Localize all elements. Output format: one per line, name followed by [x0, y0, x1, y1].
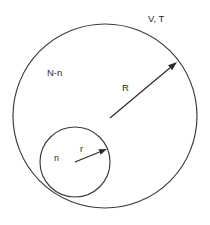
diagram-canvas: V, T N-n R n r	[0, 0, 210, 225]
outer-radius-arrow-shaft	[110, 68, 170, 118]
label-outer-population: N-n	[47, 67, 62, 78]
label-system-state: V, T	[148, 13, 165, 24]
inner-radius-arrow-shaft	[75, 152, 100, 162]
label-inner-population: n	[54, 153, 59, 163]
label-inner-radius: r	[80, 144, 83, 154]
outer-radius-arrow	[110, 62, 177, 118]
label-outer-radius: R	[122, 82, 129, 93]
inner-radius-arrow-head	[98, 149, 107, 155]
sphere-diagram: V, T N-n R n r	[0, 0, 210, 225]
